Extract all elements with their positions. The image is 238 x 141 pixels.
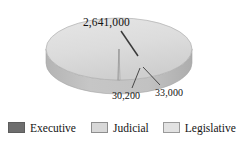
legend-item-legislative[interactable]: Legislative <box>163 114 236 141</box>
legend-swatch-executive-icon <box>8 122 25 133</box>
legend-item-executive[interactable]: Executive <box>8 114 76 141</box>
legend-item-judicial[interactable]: Judicial <box>91 114 149 141</box>
pie-label-judicial: 30,200 <box>112 90 140 101</box>
chart-legend: Executive Judicial Legislative <box>0 114 238 141</box>
legend-label-legislative: Legislative <box>185 122 236 134</box>
pie-label-legislative: 33,000 <box>155 87 183 98</box>
legend-label-judicial: Judicial <box>113 122 149 134</box>
legend-label-executive: Executive <box>30 122 76 134</box>
pie-chart-plot-area: 2,641,000 30,200 33,000 <box>0 0 238 112</box>
legend-swatch-legislative-icon <box>163 122 180 133</box>
pie-chart-figure: 2,641,000 30,200 33,000 Executive Judici… <box>0 0 238 141</box>
legend-swatch-judicial-icon <box>91 122 108 133</box>
pie-label-executive: 2,641,000 <box>83 16 130 28</box>
